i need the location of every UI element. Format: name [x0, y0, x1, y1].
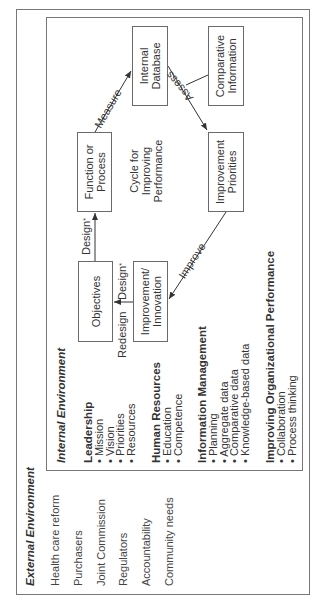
node-label: Information [226, 35, 238, 97]
external-item: Community needs [162, 495, 185, 586]
node-objectives: Objectives [78, 261, 113, 342]
category-item: Knowledge-based data [240, 326, 251, 463]
edge-label-redesign: Redesign [116, 312, 128, 358]
node-internal-database: Internal Database [132, 26, 168, 106]
node-label: Improvement [214, 140, 226, 204]
external-item: Health care reform [48, 495, 71, 586]
external-environment-list: Health care reform Purchasers Joint Comm… [48, 495, 185, 586]
center-label-line: Improving [140, 133, 152, 209]
node-label: Improvement/ [139, 268, 151, 335]
node-comparative-information: Comparative Information [208, 26, 244, 106]
external-item: Joint Commission [94, 495, 117, 586]
node-label: Innovation [151, 268, 163, 335]
category-item: Resources [126, 402, 137, 463]
node-label: Process [95, 144, 107, 199]
cycle-center-label: Cycle for Improving Performance [128, 133, 164, 209]
center-label-line: Cycle for [128, 133, 140, 209]
external-item: Purchasers [71, 495, 94, 586]
node-label: Comparative [214, 35, 226, 97]
node-label: Function or [83, 144, 95, 199]
category-information-management: Information Management Planning Aggregat… [196, 326, 250, 463]
center-label-line: Performance [152, 133, 164, 209]
edge-label-text: Design [116, 266, 128, 300]
category-item: Planning [208, 326, 219, 463]
node-label: Priorities [226, 140, 238, 204]
diagram-canvas: External Environment Health care reform … [0, 0, 324, 614]
category-item: Collaboration [276, 251, 287, 463]
category-item: Competence [173, 362, 184, 463]
external-item: Accountability [139, 495, 162, 586]
node-improvement-innovation: Improvement/ Innovation [133, 261, 168, 342]
asterisk-mark: * [82, 218, 89, 221]
node-function-process: Function or Process [77, 132, 112, 212]
node-label: Objectives [90, 276, 102, 327]
category-human-resources: Human Resources Education Competence [150, 362, 183, 463]
node-improvement-priorities: Improvement Priorities [208, 132, 244, 212]
external-item: Regulators [116, 495, 139, 586]
edge-label-design-1: Design* [80, 218, 92, 255]
asterisk-mark: * [118, 263, 125, 266]
category-item: Comparative data [229, 326, 240, 463]
node-label: Database [150, 42, 162, 89]
edge-label-text: Redesign [116, 312, 128, 358]
edge-label-text: Design [80, 221, 92, 255]
category-item: Mission [94, 402, 105, 463]
category-leadership: Leadership Mission Vision Priorities Res… [82, 402, 136, 463]
category-item: Priorities [115, 402, 126, 463]
edge-label-design-2: Design* [116, 263, 128, 300]
external-environment-title: External Environment [24, 467, 36, 586]
internal-environment-title: Internal Environment [55, 348, 67, 463]
category-item: Process thinking [287, 251, 298, 463]
category-improving-performance: Improving Organizational Performance Col… [264, 251, 297, 463]
node-label: Internal [138, 42, 150, 89]
category-item: Education [162, 362, 173, 463]
